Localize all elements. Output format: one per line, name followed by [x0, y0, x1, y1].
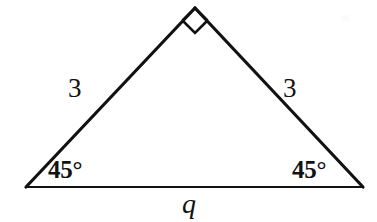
triangle-right-leg: [195, 8, 363, 187]
side-label-left: 3: [68, 75, 82, 102]
right-angle-square-icon: [183, 21, 208, 34]
angle-label-bottom-left: 45°: [48, 157, 82, 182]
base-label: q: [182, 190, 196, 218]
scan-artifact: [342, 15, 350, 22]
angle-label-bottom-right: 45°: [292, 157, 326, 182]
geometry-figure: 3 3 45° 45° q: [0, 0, 377, 222]
side-label-right: 3: [283, 75, 297, 102]
